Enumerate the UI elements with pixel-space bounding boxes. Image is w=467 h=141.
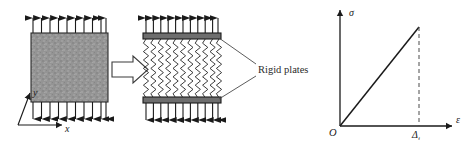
spring-bottom-load-arrows xyxy=(146,103,218,120)
spring-array xyxy=(143,39,221,98)
chart-y-axis-label: σ xyxy=(349,7,355,18)
series-linear-elastic xyxy=(340,27,419,126)
strain-limit-subscript: i xyxy=(418,135,420,141)
spring-model-group: Rigid plates xyxy=(143,18,308,120)
strain-limit-label: Δi xyxy=(411,129,420,140)
chart-origin-label: O xyxy=(329,127,337,138)
rigid-plates-leader-lines xyxy=(219,38,256,99)
figure-canvas: y x xyxy=(0,0,467,140)
bottom-load-arrows xyxy=(33,102,106,119)
rigid-plates-label: Rigid plates xyxy=(258,64,308,75)
stress-strain-chart: σ ε O Δi xyxy=(329,7,460,140)
continuum-block-group xyxy=(31,18,108,119)
spring-top-load-arrows xyxy=(146,18,218,33)
bottom-rigid-plate xyxy=(143,97,221,103)
figure-root: y x xyxy=(0,0,467,140)
chart-x-axis-label: ε xyxy=(456,114,460,125)
x-axis-label: x xyxy=(64,123,70,134)
y-axis-label: y xyxy=(32,87,38,98)
top-load-arrows xyxy=(33,18,106,33)
y-axis-line xyxy=(18,93,30,125)
block-arrow xyxy=(112,56,148,83)
solid-block xyxy=(31,33,108,102)
top-rigid-plate xyxy=(143,33,221,39)
